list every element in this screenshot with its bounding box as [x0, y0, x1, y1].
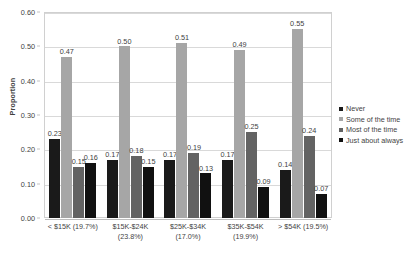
bar-slot: 0.18: [131, 12, 142, 218]
legend-swatch-icon: [339, 107, 343, 111]
bar-chart: Proportion 0.000.100.200.300.400.500.60 …: [0, 0, 419, 259]
bar-group-bars: 0.170.500.180.15: [102, 12, 160, 218]
bar[interactable]: [107, 160, 118, 218]
bar[interactable]: [234, 50, 245, 218]
bar-slot: 0.15: [73, 12, 84, 218]
bar-value-label: 0.17: [105, 151, 119, 158]
bar[interactable]: [304, 136, 315, 218]
bar-slot: 0.55: [292, 12, 303, 218]
bar-value-label: 0.23: [48, 130, 62, 137]
x-axis-tick-labels: < $15K (19.7%)$15K-$24K (23.8%)$25K-$34K…: [44, 222, 332, 242]
bar-group-bars: 0.170.510.190.13: [159, 12, 217, 218]
y-axis-tick-label: 0.20: [21, 145, 35, 154]
legend-item[interactable]: Most of the time: [339, 125, 403, 134]
bar-value-label: 0.13: [199, 165, 213, 172]
bar[interactable]: [280, 170, 291, 218]
legend-label: Just about always: [346, 136, 403, 145]
bar-slot: 0.24: [304, 12, 315, 218]
gridline: [45, 219, 331, 220]
legend-swatch-icon: [339, 117, 343, 121]
x-axis-tick-label: $25K-$34K (17.0%): [159, 222, 217, 242]
y-axis-tick-mark: [37, 149, 40, 150]
bar[interactable]: [131, 156, 142, 218]
bar-groups: 0.230.470.150.160.170.500.180.150.170.51…: [44, 12, 332, 218]
bar-group: 0.230.470.150.16: [44, 12, 102, 218]
bar-value-label: 0.19: [187, 144, 201, 151]
bar-value-label: 0.15: [141, 158, 155, 165]
bar-value-label: 0.14: [278, 161, 292, 168]
bar[interactable]: [246, 132, 257, 218]
bar-slot: 0.49: [234, 12, 245, 218]
bar-value-label: 0.17: [220, 151, 234, 158]
bar-slot: 0.51: [176, 12, 187, 218]
bar-group: 0.170.500.180.15: [102, 12, 160, 218]
y-axis-tick-label: 0.50: [21, 42, 35, 51]
bar[interactable]: [61, 57, 72, 218]
bar[interactable]: [143, 167, 154, 219]
legend-item[interactable]: Just about always: [339, 136, 403, 145]
bar-slot: 0.15: [143, 12, 154, 218]
bar-slot: 0.25: [246, 12, 257, 218]
bar-group: 0.170.510.190.13: [159, 12, 217, 218]
bar-value-label: 0.25: [244, 123, 258, 130]
y-axis-tick-mark: [37, 80, 40, 81]
bar-value-label: 0.49: [232, 41, 246, 48]
bar[interactable]: [164, 160, 175, 218]
bar-slot: 0.17: [164, 12, 175, 218]
bar-value-label: 0.47: [60, 48, 74, 55]
bar-slot: 0.50: [119, 12, 130, 218]
bar[interactable]: [316, 194, 327, 218]
bar[interactable]: [73, 167, 84, 219]
bar[interactable]: [200, 173, 211, 218]
bar[interactable]: [176, 43, 187, 218]
bar-slot: 0.47: [61, 12, 72, 218]
y-axis-tick-label: 0.40: [21, 76, 35, 85]
bar[interactable]: [119, 46, 130, 218]
legend-item[interactable]: Some of the time: [339, 115, 403, 124]
bar-value-label: 0.50: [117, 38, 131, 45]
bar-slot: 0.07: [316, 12, 327, 218]
bar[interactable]: [258, 187, 269, 218]
y-axis-tick-label: 0.10: [21, 179, 35, 188]
bar-value-label: 0.09: [256, 178, 270, 185]
legend-swatch-icon: [339, 128, 343, 132]
x-axis-tick-label: $35K-$54K (19.9%): [217, 222, 275, 242]
y-axis-tick-mark: [37, 46, 40, 47]
legend-swatch-icon: [339, 138, 343, 142]
bar[interactable]: [85, 163, 96, 218]
bar-value-label: 0.51: [175, 34, 189, 41]
bar-value-label: 0.16: [84, 154, 98, 161]
bar[interactable]: [222, 160, 233, 218]
bar[interactable]: [49, 139, 60, 218]
legend-label: Never: [346, 104, 365, 113]
y-axis-tick-mark: [37, 183, 40, 184]
bar-slot: 0.16: [85, 12, 96, 218]
legend-label: Some of the time: [346, 115, 400, 124]
y-axis-tick-label: 0.00: [21, 214, 35, 223]
bar-slot: 0.13: [200, 12, 211, 218]
bar-value-label: 0.18: [129, 147, 143, 154]
bar-value-label: 0.17: [163, 151, 177, 158]
bar-group-bars: 0.170.490.250.09: [217, 12, 275, 218]
bar-group: 0.170.490.250.09: [217, 12, 275, 218]
x-axis-tick-label: > $54K (19.5%): [274, 222, 332, 242]
y-axis-tick-mark: [37, 115, 40, 116]
bar-value-label: 0.07: [314, 185, 328, 192]
y-axis-tick-label: 0.30: [21, 111, 35, 120]
bar-slot: 0.19: [188, 12, 199, 218]
x-axis-tick-label: < $15K (19.7%): [44, 222, 102, 242]
x-axis-tick-label: $15K-$24K (23.8%): [102, 222, 160, 242]
bar-slot: 0.17: [222, 12, 233, 218]
y-axis-tick-label: 0.60: [21, 8, 35, 17]
bar-group: 0.140.550.240.07: [274, 12, 332, 218]
bar-slot: 0.14: [280, 12, 291, 218]
legend-item[interactable]: Never: [339, 104, 403, 113]
bar-group-bars: 0.140.550.240.07: [274, 12, 332, 218]
bar-slot: 0.23: [49, 12, 60, 218]
bar-slot: 0.17: [107, 12, 118, 218]
bar[interactable]: [292, 29, 303, 218]
bar-slot: 0.09: [258, 12, 269, 218]
bar-value-label: 0.24: [302, 127, 316, 134]
bar[interactable]: [188, 153, 199, 218]
y-axis-tick-labels: 0.000.100.200.300.400.500.60: [0, 12, 40, 218]
